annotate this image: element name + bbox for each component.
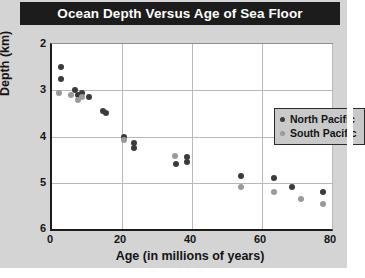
legend-label: North Pacific [290,113,355,125]
bottom-margin [0,268,353,278]
data-point [121,137,127,143]
x-tick-label: 60 [240,233,280,245]
x-tick-label: 80 [310,233,350,245]
x-axis-label: Age (in millions of years) [50,249,330,263]
data-point [238,173,244,179]
chart-title: Ocean Depth Versus Age of Sea Floor [57,6,302,21]
y-tick-label: 2 [12,37,46,49]
data-point [58,76,64,82]
plot-frame: North Pacific South Pacific [50,43,333,231]
data-point [68,92,74,98]
data-point [320,201,326,207]
data-point [56,90,62,96]
gridline-vertical [192,44,193,229]
data-point [271,175,277,181]
y-axis-label: Depth (km) [0,31,12,96]
legend-marker-icon [280,117,285,122]
x-tick-label: 40 [170,233,210,245]
y-tick-label: 5 [12,176,46,188]
data-point [79,94,85,100]
data-point [103,110,109,116]
gridline-vertical [262,44,263,229]
data-point [298,196,304,202]
data-point [58,64,64,70]
data-point [172,153,178,159]
data-point [271,189,277,195]
right-margin [347,0,353,278]
chart-title-bar: Ocean Depth Versus Age of Sea Floor [20,2,340,25]
data-point [131,145,137,151]
data-point [173,161,179,167]
y-tick-label: 3 [12,83,46,95]
legend-item-north-pacific: North Pacific [280,112,357,126]
data-point [320,189,326,195]
legend-marker-icon [280,131,285,136]
legend-item-south-pacific: South Pacific [280,126,357,140]
data-point [86,94,92,100]
y-tick-label: 4 [12,130,46,142]
data-point [289,184,295,190]
x-tick-label: 20 [100,233,140,245]
data-point [184,154,190,160]
x-tick-label: 0 [30,233,70,245]
data-point [238,184,244,190]
